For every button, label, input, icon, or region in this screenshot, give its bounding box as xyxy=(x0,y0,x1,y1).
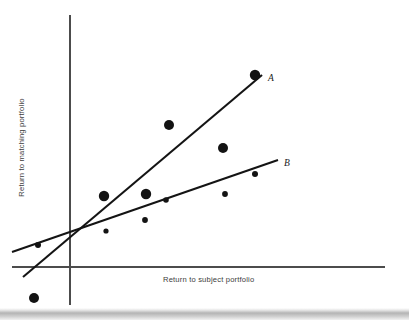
y-axis-title: Return to matching portfolio xyxy=(17,83,26,213)
data-point xyxy=(29,293,39,303)
scatter-plot-canvas: A B xyxy=(0,0,409,320)
data-point xyxy=(99,191,109,201)
data-point xyxy=(103,228,108,233)
data-point xyxy=(164,120,174,130)
data-point xyxy=(222,191,228,197)
data-point xyxy=(141,189,151,199)
chart-figure: A B Return to subject portfolio Return t… xyxy=(0,0,409,320)
line-a-label: A xyxy=(267,73,274,83)
trend-line-a xyxy=(23,75,262,277)
data-point xyxy=(163,197,169,203)
line-b-label: B xyxy=(284,158,290,168)
data-point xyxy=(252,171,258,177)
x-axis-title: Return to subject portfolio xyxy=(163,275,254,284)
data-point xyxy=(35,242,41,248)
data-point xyxy=(218,143,228,153)
page-bottom-band xyxy=(0,308,409,320)
data-point xyxy=(250,70,260,80)
data-point xyxy=(142,217,148,223)
